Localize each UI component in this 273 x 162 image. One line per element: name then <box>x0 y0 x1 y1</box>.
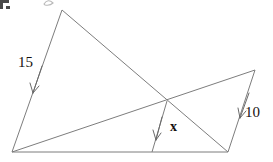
geometry-figure: 15 10 x <box>0 0 273 162</box>
segment-base-left-to-apex-right <box>12 70 255 152</box>
crop-corner-mark-icon <box>0 0 10 9</box>
segment-apex-left-to-base-right <box>62 10 228 152</box>
clipped-glyph-artifact <box>44 1 53 6</box>
label-unknown-x: x <box>170 120 177 134</box>
figure-canvas <box>0 0 273 162</box>
arrow-to-left-side-icon <box>30 66 42 93</box>
arrow-to-x-segment-icon <box>153 117 162 140</box>
label-right-side-length: 10 <box>245 105 260 120</box>
label-left-side-length: 15 <box>18 55 33 70</box>
